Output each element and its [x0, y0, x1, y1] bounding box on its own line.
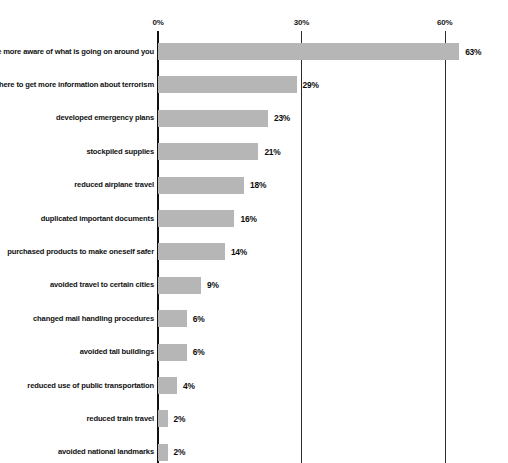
x-axis-tick-label: 60% [437, 18, 452, 27]
bar-value-label: 29% [303, 81, 319, 89]
bar-row: learned where to get more information ab… [0, 76, 508, 93]
bar-chart: 0%30%60% become more aware of what is go… [0, 0, 508, 463]
bar [158, 277, 201, 294]
bar-category-label: purchased products to make oneself safer [0, 248, 154, 256]
bar-category-label: avoided national landmarks [0, 449, 154, 457]
bar-value-label: 16% [240, 214, 256, 222]
bar [158, 143, 258, 160]
bar [158, 377, 177, 394]
bar [158, 210, 234, 227]
bar-row: become more aware of what is going on ar… [0, 43, 508, 60]
bar-value-label: 14% [231, 248, 247, 256]
bar-value-label: 2% [174, 448, 186, 456]
bar-row: reduced train travel2% [0, 410, 508, 427]
bar-value-label: 9% [207, 281, 219, 289]
bar [158, 410, 168, 427]
bar-value-label: 63% [465, 47, 481, 55]
bar [158, 43, 459, 60]
bar-category-label: avoided travel to certain cities [0, 282, 154, 290]
bar-category-label: reduced use of public transportation [0, 382, 154, 390]
bar-value-label: 4% [183, 381, 195, 389]
bar-category-label: avoided tall buildings [0, 348, 154, 356]
bar [158, 444, 168, 461]
bar [158, 110, 268, 127]
bar-row: duplicated important documents16% [0, 210, 508, 227]
bar-row: reduced use of public transportation4% [0, 377, 508, 394]
bar-value-label: 6% [193, 314, 205, 322]
bar-row: stockpiled supplies21% [0, 143, 508, 160]
bar-row: avoided national landmarks2% [0, 444, 508, 461]
bar-value-label: 18% [250, 181, 266, 189]
bar-category-label: duplicated important documents [0, 215, 154, 223]
bar-row: reduced airplane travel18% [0, 177, 508, 194]
bar-row: purchased products to make oneself safer… [0, 243, 508, 260]
bar [158, 76, 297, 93]
bar-category-label: developed emergency plans [0, 115, 154, 123]
x-axis-tick-mark [445, 31, 446, 40]
bar-row: avoided travel to certain cities9% [0, 277, 508, 294]
x-axis-tick-mark [301, 31, 302, 40]
bar-value-label: 23% [274, 114, 290, 122]
bar [158, 344, 187, 361]
bar-row: avoided tall buildings6% [0, 344, 508, 361]
bar-category-label: learned where to get more information ab… [0, 81, 154, 89]
bar-category-label: reduced airplane travel [0, 181, 154, 189]
bar [158, 243, 225, 260]
bar-row: developed emergency plans23% [0, 110, 508, 127]
bar-category-label: changed mail handling procedures [0, 315, 154, 323]
bar-row: changed mail handling procedures6% [0, 310, 508, 327]
bar-value-label: 2% [174, 415, 186, 423]
x-axis-tick-label: 0% [152, 18, 163, 27]
bar-value-label: 21% [264, 147, 280, 155]
bar-category-label: become more aware of what is going on ar… [0, 48, 154, 56]
bar [158, 177, 244, 194]
bar-category-label: reduced train travel [0, 415, 154, 423]
x-axis-tick-label: 30% [294, 18, 309, 27]
bar-value-label: 6% [193, 348, 205, 356]
bar [158, 310, 187, 327]
bar-category-label: stockpiled supplies [0, 148, 154, 156]
